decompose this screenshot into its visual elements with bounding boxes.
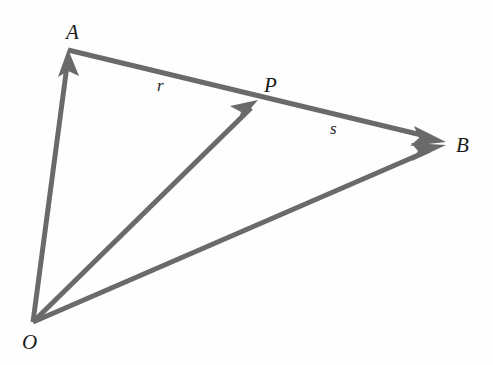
vector-diagram-figure: A O B P r s <box>0 0 493 365</box>
vector-OA-shaft <box>33 58 68 322</box>
vector-strokes <box>33 50 430 322</box>
point-label-A: A <box>66 22 79 43</box>
segment-label-s: s <box>330 120 337 137</box>
vector-diagram-canvas <box>0 0 493 365</box>
point-label-P: P <box>264 75 277 96</box>
vector-arrowheads <box>58 49 446 161</box>
point-label-B: B <box>456 135 469 156</box>
vector-AB-shaft <box>68 50 430 137</box>
arrowhead-at-B-from-O <box>411 143 446 161</box>
segment-label-r: r <box>157 77 164 94</box>
arrowhead-at-P <box>230 100 258 123</box>
vector-OP-shaft <box>33 108 251 322</box>
point-label-O: O <box>22 332 37 353</box>
vector-OB-shaft <box>33 150 430 322</box>
